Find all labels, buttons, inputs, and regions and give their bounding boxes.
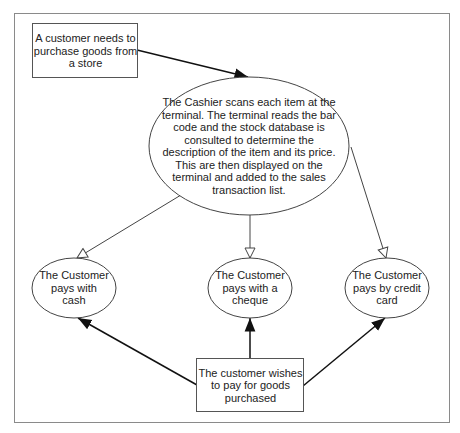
edge-wish-credit <box>303 318 385 386</box>
node-credit-label: The Customer pays by credit card <box>345 258 429 318</box>
edge-wish-cash <box>78 318 197 385</box>
edge-scan-credit <box>351 147 386 258</box>
node-cheque-label: The Customer pays with a cheque <box>208 258 292 318</box>
node-wish-label: The customer wishes to pay for goods pur… <box>197 359 304 412</box>
edge-start-scan <box>137 50 248 77</box>
node-start-label: A customer needs to purchase goods from … <box>33 24 138 78</box>
node-cash-label: The Customer pays with cash <box>32 258 116 318</box>
node-scan-label: The Cashier scans each item at the termi… <box>150 77 348 215</box>
